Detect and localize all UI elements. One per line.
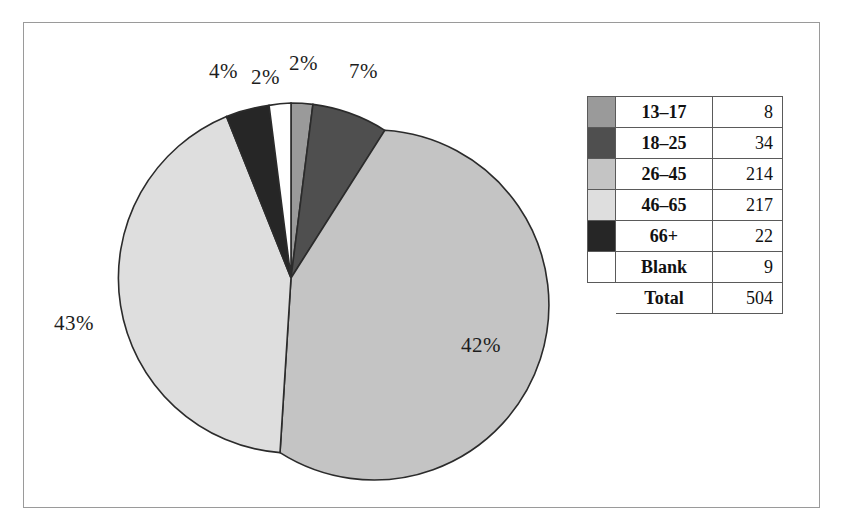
pie-slices: [118, 103, 549, 480]
legend-label-blank: Blank: [616, 252, 713, 283]
legend-row-total: Total 504: [588, 283, 783, 314]
pie-label-66-plus: 4%: [209, 59, 238, 84]
legend-swatch-46-65: [588, 190, 616, 221]
legend-value-blank: 9: [713, 252, 783, 283]
legend-swatch-18-25: [588, 128, 616, 159]
pie-label-blank: 2%: [251, 65, 280, 90]
legend-label-26-45: 26–45: [616, 159, 713, 190]
legend-swatch-66-plus: [588, 221, 616, 252]
legend-table: 13–17 8 18–25 34 26–45 214: [587, 96, 783, 314]
legend-value-18-25: 34: [713, 128, 783, 159]
pie-svg: [24, 23, 584, 509]
legend-label-18-25: 18–25: [616, 128, 713, 159]
legend-label-66-plus: 66+: [616, 221, 713, 252]
pie-label-18-25: 7%: [349, 59, 378, 84]
legend-swatch-total-empty: [588, 283, 616, 314]
legend-value-46-65: 217: [713, 190, 783, 221]
pie-label-26-45: 42%: [461, 333, 501, 358]
legend-row-26-45[interactable]: 26–45 214: [588, 159, 783, 190]
legend-swatch-blank: [588, 252, 616, 283]
legend-value-26-45: 214: [713, 159, 783, 190]
legend-swatch-26-45: [588, 159, 616, 190]
legend-value-66-plus: 22: [713, 221, 783, 252]
figure-frame: 4% 2% 2% 7% 43% 42% 13–17 8 18–25 34: [23, 22, 820, 508]
pie-label-46-65: 43%: [54, 311, 94, 336]
legend-row-13-17[interactable]: 13–17 8: [588, 97, 783, 128]
legend-label-total: Total: [616, 283, 713, 314]
legend-row-66-plus[interactable]: 66+ 22: [588, 221, 783, 252]
legend-swatch-13-17: [588, 97, 616, 128]
pie-chart: 4% 2% 2% 7% 43% 42%: [24, 23, 584, 509]
legend-value-total: 504: [713, 283, 783, 314]
pie-label-13-17: 2%: [289, 51, 318, 76]
legend-value-13-17: 8: [713, 97, 783, 128]
legend-row-blank[interactable]: Blank 9: [588, 252, 783, 283]
legend-row-18-25[interactable]: 18–25 34: [588, 128, 783, 159]
legend-label-46-65: 46–65: [616, 190, 713, 221]
legend-row-46-65[interactable]: 46–65 217: [588, 190, 783, 221]
legend-label-13-17: 13–17: [616, 97, 713, 128]
